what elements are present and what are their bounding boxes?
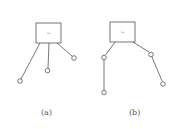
node-b-3	[149, 52, 154, 57]
source-symbol-a: ~	[46, 29, 51, 36]
node-a-2	[45, 68, 50, 73]
node-b-4	[161, 82, 166, 87]
node-b-2	[102, 90, 107, 95]
wire-b-1	[106, 42, 116, 55]
wire-a-3	[57, 43, 72, 56]
wire-a-2	[48, 43, 49, 68]
caption-b: (b)	[129, 108, 140, 117]
diagram-canvas: ~ ~	[0, 0, 180, 129]
wire-b-3	[133, 42, 149, 52]
node-b-1	[102, 55, 107, 60]
node-a-3	[72, 56, 77, 61]
caption-a: (a)	[41, 108, 52, 117]
node-a-1	[18, 79, 23, 84]
diagram-a: ~	[18, 23, 77, 83]
diagram-b: ~	[102, 22, 166, 95]
wire-a-1	[21, 43, 40, 79]
wire-b-4	[152, 57, 162, 81]
source-symbol-b: ~	[120, 28, 125, 35]
